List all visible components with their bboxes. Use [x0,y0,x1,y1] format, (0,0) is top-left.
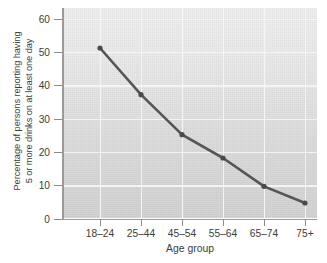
y-tick-mark-30 [54,119,62,120]
x-tick-label-18-24: 18–24 [86,228,114,239]
x-tick-label-55-64: 55–64 [209,228,237,239]
gridline-x-55-64 [223,8,224,218]
y-tick-label-30: 30 [28,113,50,124]
gridline-x-18-24 [100,8,101,218]
x-tick-mark-25-44 [141,219,142,226]
x-tick-label-25-44: 25–44 [127,228,155,239]
y-tick-mark-40 [54,85,62,86]
gridline-x-45-54 [182,8,183,218]
chart-figure: Percentage of persons reporting having 5… [0,0,327,263]
plot-area [63,8,317,218]
y-tick-mark-20 [54,152,62,153]
y-tick-label-10: 10 [28,180,50,191]
y-tick-label-20: 20 [28,146,50,157]
x-tick-label-45-54: 45–54 [168,228,196,239]
gridline-x-25-44 [141,8,142,218]
y-tick-label-60: 60 [28,13,50,24]
x-tick-mark-18-24 [100,219,101,226]
y-axis-tick-labels: 0 10 20 30 40 50 60 [24,0,50,222]
x-tick-mark-75-plus [305,219,306,226]
y-tick-mark-0 [54,219,62,220]
gridline-x-65-74 [264,8,265,218]
x-axis-title: Age group [63,243,317,254]
y-tick-label-0: 0 [28,213,50,224]
x-tick-mark-45-54 [182,219,183,226]
x-tick-label-65-74: 65–74 [250,228,278,239]
x-tick-mark-55-64 [223,219,224,226]
y-axis-line [62,8,64,219]
x-tick-label-75-plus: 75+ [296,228,313,239]
y-tick-label-40: 40 [28,80,50,91]
y-tick-mark-60 [54,19,62,20]
y-tick-mark-50 [54,52,62,53]
y-tick-mark-10 [54,185,62,186]
x-tick-mark-65-74 [264,219,265,226]
y-tick-label-50: 50 [28,46,50,57]
y-axis-title-line-1: Percentage of persons reporting having [11,4,23,218]
gridline-x-75-plus [305,8,306,218]
